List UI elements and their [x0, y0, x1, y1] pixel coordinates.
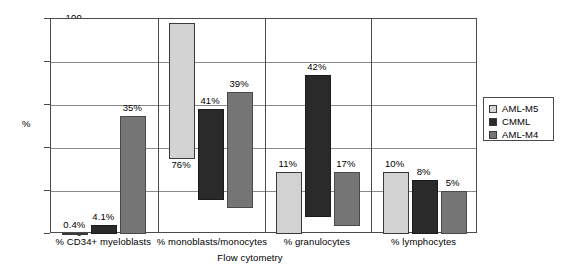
bar-value-label: 8%	[402, 167, 446, 177]
bar-m4	[227, 92, 253, 208]
bar-value-label: 5%	[431, 178, 475, 188]
plot-area	[50, 18, 477, 233]
legend-swatch-icon	[489, 118, 497, 126]
bar-m4	[441, 191, 467, 234]
category-separator	[265, 19, 266, 232]
legend-item-cmml: CMML	[489, 115, 553, 128]
bar-cmml	[305, 75, 331, 217]
bar-value-label: 4.1%	[81, 212, 125, 222]
legend-swatch-icon	[489, 131, 497, 139]
bar-m5	[383, 172, 409, 234]
bar-value-label: 39%	[217, 79, 261, 89]
bar-value-label: 11%	[266, 159, 310, 169]
legend-swatch-icon	[489, 105, 497, 113]
bar-m4	[334, 172, 360, 227]
bar-value-label: 42%	[295, 62, 339, 72]
bar-value-label: 76%	[159, 160, 203, 170]
legend-label: AML-M4	[502, 129, 539, 140]
y-axis-tick-mark	[44, 233, 50, 234]
bar-m5	[62, 233, 88, 235]
bar-cmml	[412, 180, 438, 234]
bar-value-label: 41%	[188, 96, 232, 106]
legend-label: CMML	[502, 116, 530, 127]
legend: AML-M5 CMML AML-M4	[483, 97, 554, 141]
gridline	[51, 148, 476, 149]
legend-label: AML-M5	[502, 103, 539, 114]
chart-figure: % 020406080100 0.4%4.1%35%76%41%39%11%42…	[0, 0, 563, 271]
category-separator	[371, 19, 372, 232]
gridline	[51, 62, 476, 63]
bar-m5	[276, 172, 302, 234]
category-label: % monoblasts/monocytes	[157, 236, 264, 247]
category-label: % lymphocytes	[370, 236, 477, 247]
bar-value-label: 35%	[110, 103, 154, 113]
bar-value-label: 17%	[324, 159, 368, 169]
x-axis-title: Flow cytometry	[0, 252, 500, 263]
y-axis-title: %	[22, 118, 30, 129]
category-label: % CD34+ myeloblasts	[50, 236, 157, 247]
category-label: % granulocytes	[264, 236, 371, 247]
legend-item-aml-m4: AML-M4	[489, 128, 553, 141]
category-separator	[158, 19, 159, 232]
bar-m5	[169, 23, 195, 158]
legend-item-aml-m5: AML-M5	[489, 102, 553, 115]
bar-cmml	[198, 109, 224, 199]
